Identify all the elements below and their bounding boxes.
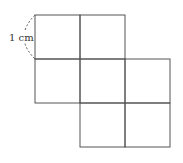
- grid-square: [80, 103, 125, 147]
- grid-square: [35, 15, 80, 59]
- grid-square: [80, 15, 125, 59]
- grid-squares: [35, 15, 170, 147]
- unit-label: 1 cm: [9, 32, 34, 43]
- grid-square: [125, 103, 170, 147]
- grid-square: [125, 59, 170, 103]
- grid-square: [80, 59, 125, 103]
- grid-diagram: 1 cm: [0, 0, 183, 163]
- grid-square: [35, 59, 80, 103]
